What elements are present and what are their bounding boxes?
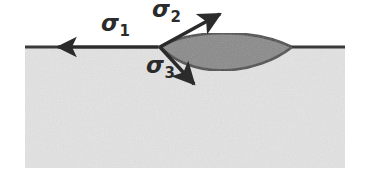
diagram-svg [0,0,365,186]
sigma3-label: σ3 [146,54,175,81]
sigma1-subscript: 1 [119,22,129,40]
figure-canvas: σ1 σ2 σ3 [0,0,365,186]
sigma2-subscript: 2 [170,8,180,26]
sigma2-symbol: σ [152,0,170,22]
substrate-fill [25,47,345,168]
sigma1-label: σ1 [101,12,130,39]
substrate-block [25,47,345,168]
sigma3-symbol: σ [146,52,164,78]
sigma2-label: σ2 [152,0,181,25]
sigma3-subscript: 3 [164,64,174,82]
sigma1-symbol: σ [101,10,119,36]
